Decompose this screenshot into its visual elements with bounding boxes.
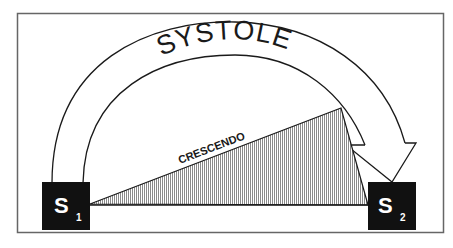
s1-box: S 1 xyxy=(42,182,90,230)
svg-text:S: S xyxy=(54,193,69,218)
svg-text:2: 2 xyxy=(400,212,406,223)
svg-text:S: S xyxy=(378,193,393,218)
crescendo-shape xyxy=(90,108,368,205)
systole-diagram: SYSTOLE CRESCENDO S 1 S 2 xyxy=(0,0,453,248)
svg-text:1: 1 xyxy=(76,212,82,223)
s2-box: S 2 xyxy=(368,182,416,230)
